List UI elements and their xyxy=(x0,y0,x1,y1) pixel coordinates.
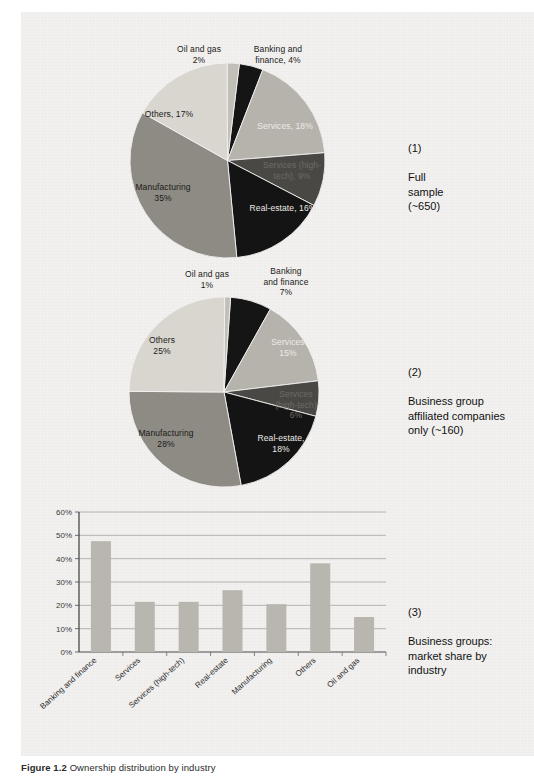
y-axis-tick-label: 50% xyxy=(56,531,72,540)
pie1-label-realestate: Real-estate, 16% xyxy=(241,203,325,214)
annotation-1: (1) Full sample (~650) xyxy=(408,142,524,214)
x-axis-category-label: Manufacturing xyxy=(230,656,274,697)
annotation-2: (2) Business group affiliated companies … xyxy=(408,366,532,438)
pie1-label-services-hightech: Services (high- tech), 9% xyxy=(259,160,325,181)
annotation-2-number: (2) xyxy=(408,366,532,378)
bar xyxy=(135,602,155,652)
annotation-1-number: (1) xyxy=(408,142,524,154)
pie2-label-banking: Banking and finance 7% xyxy=(249,266,323,298)
annotation-3-number: (3) xyxy=(408,606,532,618)
y-axis-tick-label: 0% xyxy=(60,648,72,657)
x-axis-category-label: Real-estate xyxy=(193,655,230,689)
pie1-label-banking: Banking and finance, 4% xyxy=(237,44,319,65)
annotation-3: (3) Business groups: market share by ind… xyxy=(408,606,532,678)
figure-page: Oil and gas 2% Banking and finance, 4% S… xyxy=(0,0,534,783)
y-axis-tick-label: 40% xyxy=(56,555,72,564)
y-axis-tick-label: 10% xyxy=(56,625,72,634)
x-axis-category-label: Oil and gas xyxy=(325,656,361,690)
x-axis-category-label: Others xyxy=(294,656,318,679)
pie2-label-others: Others 25% xyxy=(131,335,193,356)
bar xyxy=(310,563,330,652)
annotation-1-text: Full sample (~650) xyxy=(408,170,524,214)
bar xyxy=(354,617,374,652)
bar xyxy=(223,590,243,652)
bar-chart-3-svg: 0%10%20%30%40%50%60%Banking and financeS… xyxy=(34,502,394,752)
x-axis-category-label: Services xyxy=(113,656,142,683)
x-axis-category-label: Banking and finance xyxy=(38,655,98,711)
pie2-label-services-hightech: Services (high-tech) 6% xyxy=(265,389,327,421)
bar-chart-3: 0%10%20%30%40%50%60%Banking and financeS… xyxy=(34,502,394,752)
pie1-label-manufacturing: Manufacturing 35% xyxy=(125,182,201,203)
annotation-3-text: Business groups: market share by industr… xyxy=(408,634,532,678)
figure-caption-text: Ownership distribution by industry xyxy=(70,762,216,773)
pie2-label-manufacturing: Manufacturing 28% xyxy=(127,428,205,449)
pie1-label-services: Services, 18% xyxy=(246,121,324,132)
y-axis-tick-label: 60% xyxy=(56,508,72,517)
pie2-label-realestate: Real-estate, 18% xyxy=(245,433,317,454)
bar xyxy=(179,602,199,652)
pie1-label-others: Others, 17% xyxy=(131,109,207,120)
annotation-2-text: Business group affiliated companies only… xyxy=(408,394,532,438)
bar xyxy=(91,541,111,652)
pie2-label-oil: Oil and gas 1% xyxy=(170,269,244,290)
figure-caption: Figure 1.2 Ownership distribution by ind… xyxy=(21,762,521,782)
pie1-label-oil: Oil and gas 2% xyxy=(163,44,235,65)
figure-caption-label: Figure 1.2 xyxy=(21,762,67,773)
y-axis-tick-label: 30% xyxy=(56,578,72,587)
y-axis-tick-label: 20% xyxy=(56,601,72,610)
bar xyxy=(266,604,286,652)
pie2-label-services: Services 15% xyxy=(256,337,320,358)
